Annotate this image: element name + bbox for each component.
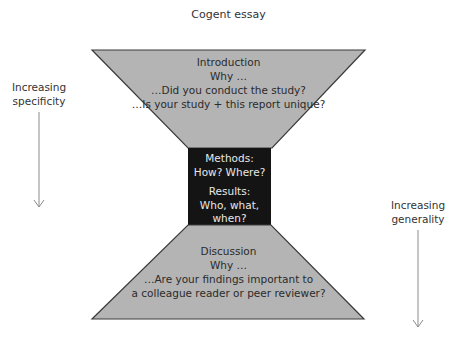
- discussion-line-2: a colleague reader or peer reviewer?: [92, 286, 365, 300]
- introduction-text: Introduction Why … …Did you conduct the …: [92, 55, 365, 111]
- discussion-text: Discussion Why … …Are your findings impo…: [92, 244, 365, 300]
- introduction-line-1: …Did you conduct the study?: [92, 83, 365, 97]
- introduction-why: Why …: [92, 69, 365, 83]
- results-line-2: when?: [188, 212, 271, 226]
- introduction-line-2: …Is your study + this report unique?: [92, 97, 365, 111]
- results-line-1: Who, what,: [188, 199, 271, 213]
- discussion-line-1: …Are your findings important to: [92, 272, 365, 286]
- specificity-line-2: specificity: [6, 94, 72, 108]
- methods-heading: Methods:: [188, 152, 271, 166]
- results-heading: Results:: [188, 185, 271, 199]
- discussion-why: Why …: [92, 258, 365, 272]
- generality-down-arrow-icon: [413, 230, 423, 327]
- generality-line-2: generality: [384, 212, 452, 226]
- specificity-down-arrow-icon: [34, 112, 44, 207]
- introduction-heading: Introduction: [92, 55, 365, 69]
- methods-results-text: Methods: How? Where? Results: Who, what,…: [188, 152, 271, 226]
- specificity-annotation: Increasing specificity: [6, 80, 72, 108]
- discussion-heading: Discussion: [92, 244, 365, 258]
- generality-line-1: Increasing: [384, 198, 452, 212]
- specificity-line-1: Increasing: [6, 80, 72, 94]
- generality-annotation: Increasing generality: [384, 198, 452, 226]
- methods-text: How? Where?: [188, 166, 271, 180]
